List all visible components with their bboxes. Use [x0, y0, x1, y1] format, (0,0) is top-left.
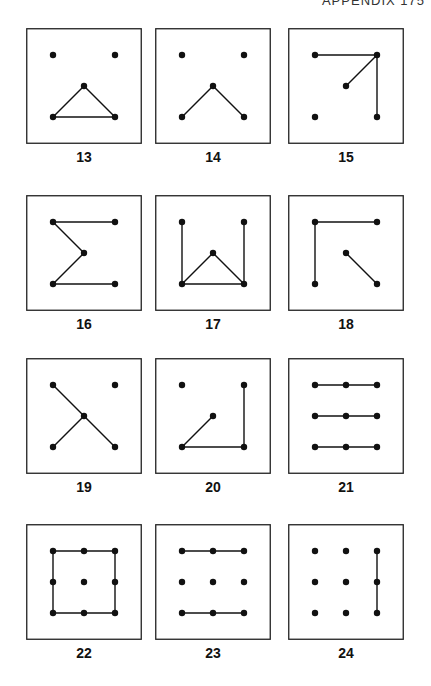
connector-line: [182, 253, 213, 284]
dot: [50, 548, 56, 554]
connector-line: [346, 253, 377, 284]
dot: [241, 219, 247, 225]
dot-figure: [155, 195, 271, 311]
dot: [210, 579, 216, 585]
dot: [179, 382, 185, 388]
dot: [374, 610, 380, 616]
dot: [343, 413, 349, 419]
figure-panel: 15: [288, 28, 404, 165]
dot: [374, 548, 380, 554]
dot: [241, 548, 247, 554]
dot: [81, 250, 87, 256]
dot: [50, 219, 56, 225]
dot: [179, 610, 185, 616]
dot: [374, 382, 380, 388]
connector-line: [182, 86, 213, 117]
dot: [112, 548, 118, 554]
dot-figure: [155, 358, 271, 474]
dot: [81, 548, 87, 554]
figure-panel: 13: [26, 28, 142, 165]
figure-number: 13: [26, 149, 142, 165]
figure-number: 23: [155, 645, 271, 661]
figure-panel: 24: [288, 524, 404, 661]
figure-panel: 20: [155, 358, 271, 495]
dot: [112, 610, 118, 616]
dot: [343, 250, 349, 256]
dot: [81, 610, 87, 616]
dot: [210, 548, 216, 554]
dot: [50, 52, 56, 58]
figure-panel: 23: [155, 524, 271, 661]
dot: [343, 548, 349, 554]
dot: [374, 52, 380, 58]
figure-number: 20: [155, 479, 271, 495]
connector-line: [213, 253, 244, 284]
figure-number: 22: [26, 645, 142, 661]
running-head: APPENDIX 175: [322, 0, 425, 8]
figure-number: 19: [26, 479, 142, 495]
connector-line: [182, 416, 213, 447]
connector-line: [346, 55, 377, 86]
dot: [343, 444, 349, 450]
dot: [210, 610, 216, 616]
dot: [112, 52, 118, 58]
connector-line: [84, 86, 115, 117]
figure-number: 16: [26, 316, 142, 332]
dot: [374, 413, 380, 419]
dot: [112, 444, 118, 450]
dot: [312, 610, 318, 616]
dot: [374, 114, 380, 120]
dot: [312, 52, 318, 58]
figure-panel: 18: [288, 195, 404, 332]
figure-panel: 14: [155, 28, 271, 165]
dot: [241, 610, 247, 616]
figure-number: 14: [155, 149, 271, 165]
dot: [312, 219, 318, 225]
dot: [179, 114, 185, 120]
dot: [179, 281, 185, 287]
connector-line: [53, 385, 84, 416]
dot: [50, 382, 56, 388]
dot: [374, 444, 380, 450]
dot: [112, 219, 118, 225]
dot: [179, 444, 185, 450]
figure-panel: 22: [26, 524, 142, 661]
dot: [374, 281, 380, 287]
figure-panel: 19: [26, 358, 142, 495]
figure-panel: 16: [26, 195, 142, 332]
dot: [210, 83, 216, 89]
dot: [343, 610, 349, 616]
dot: [374, 579, 380, 585]
dot: [343, 579, 349, 585]
dot: [50, 114, 56, 120]
figure-number: 15: [288, 149, 404, 165]
dot: [112, 382, 118, 388]
connector-line: [53, 222, 84, 253]
dot: [112, 281, 118, 287]
dot: [179, 219, 185, 225]
dot: [312, 281, 318, 287]
dot: [241, 382, 247, 388]
dot-figure: [288, 524, 404, 640]
dot: [241, 114, 247, 120]
dot-figure: [288, 358, 404, 474]
connector-line: [53, 253, 84, 284]
dot-figure: [155, 524, 271, 640]
connector-line: [53, 416, 84, 447]
dot-figure: [26, 195, 142, 311]
connector-line: [53, 86, 84, 117]
dot: [312, 413, 318, 419]
dot: [374, 219, 380, 225]
dot-figure: [26, 28, 142, 144]
dot: [50, 579, 56, 585]
dot: [312, 548, 318, 554]
dot: [343, 83, 349, 89]
dot: [81, 579, 87, 585]
dot: [241, 52, 247, 58]
dot: [312, 382, 318, 388]
dot: [50, 281, 56, 287]
dot: [112, 114, 118, 120]
figure-number: 21: [288, 479, 404, 495]
dot: [179, 548, 185, 554]
figure-panel: 21: [288, 358, 404, 495]
